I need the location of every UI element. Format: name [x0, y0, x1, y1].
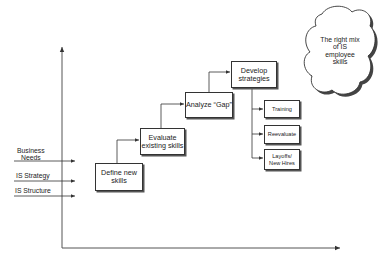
outcome-reevaluate: Reevaluate — [264, 125, 300, 144]
input-label-line: Business — [17, 147, 45, 154]
step-text: Analyze “Gap” — [186, 101, 232, 109]
outcome-text: Reevaluate — [268, 131, 296, 137]
goal-text: skills — [312, 58, 368, 65]
input-label-business-needs: Business Needs — [17, 147, 45, 161]
step-develop-strategies: Developstrategies — [231, 61, 277, 88]
connector-evaluate-to-analyze — [161, 104, 184, 128]
goal-text: of IS — [312, 43, 368, 50]
goal-cloud-text: The right mix of IS employee skills — [312, 36, 368, 66]
outcome-layoffs-new-hires: Layoffs/New Hires — [264, 149, 300, 170]
connector-analyze-to-develop — [209, 72, 230, 92]
input-label-is-strategy: IS Strategy — [16, 172, 50, 179]
input-label-is-structure: IS Structure — [15, 187, 51, 194]
outcome-text: Layoffs/ — [269, 153, 295, 159]
goal-text: employee — [312, 51, 368, 58]
outcome-training: Training — [264, 100, 300, 118]
step-text: skills — [101, 177, 137, 185]
step-analyze-gap: Analyze “Gap” — [185, 92, 233, 118]
step-define-new-skills: Define newskills — [95, 163, 143, 191]
goal-text: The right mix — [312, 36, 368, 43]
input-label-line: Needs — [17, 154, 45, 161]
connector-define-to-evaluate — [117, 140, 139, 163]
outcome-text: New Hires — [269, 160, 295, 166]
step-evaluate-existing-skills: Evaluateexisting skills — [140, 128, 185, 155]
outcome-text: Training — [272, 106, 292, 112]
step-text: strategies — [238, 75, 269, 83]
step-text: existing skills — [142, 142, 184, 150]
